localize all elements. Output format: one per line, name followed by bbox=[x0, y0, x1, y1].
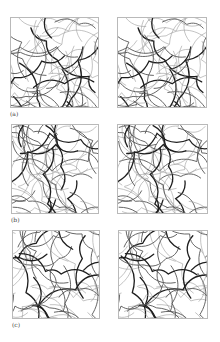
network-panel-a-right bbox=[117, 17, 207, 108]
panel-label-a: (a) bbox=[10, 111, 18, 117]
network-panel-a-left bbox=[10, 17, 99, 108]
network-panel-b-left bbox=[11, 124, 99, 214]
fiber-network-plot bbox=[119, 231, 207, 318]
fiber-network-plot bbox=[118, 18, 206, 107]
fiber-network-plot bbox=[12, 125, 98, 213]
fiber-network-plot bbox=[13, 231, 99, 318]
panel-label-c: (c) bbox=[12, 322, 20, 328]
network-panel-c-right bbox=[118, 230, 208, 319]
network-panel-c-left bbox=[12, 230, 100, 319]
fiber-network-plot bbox=[11, 18, 98, 107]
fiber-network-plot bbox=[118, 125, 207, 213]
network-panel-b-right bbox=[117, 124, 208, 214]
panel-label-b: (b) bbox=[11, 217, 20, 223]
